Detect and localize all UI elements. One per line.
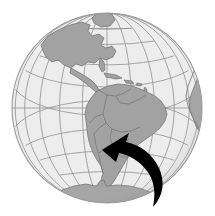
globe-figure [0,0,215,216]
globe-illustration: Globe centered on South America with rot… [0,0,215,216]
globe-limb-shading [12,13,202,203]
